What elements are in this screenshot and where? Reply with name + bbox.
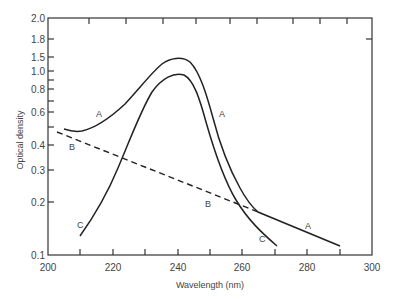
label-a-tail: A [305, 221, 311, 231]
x-tick-label: 200 [40, 262, 57, 273]
curve-labels: A A A B B C C [69, 109, 311, 244]
optical-density-chart: 2.0 1.8 1.5 1.0 0.8 0.6 0.4 0.3 0.2 0.1 … [0, 0, 397, 299]
x-axis-ticks [80, 18, 347, 255]
y-tick-label: 0.8 [31, 84, 45, 95]
x-axis-title: Wavelength (nm) [176, 280, 244, 290]
y-tick-label: 0.1 [31, 250, 45, 261]
curve-c [80, 74, 277, 246]
label-b-left: B [69, 142, 75, 152]
curve-b [57, 132, 258, 212]
x-tick-label: 240 [170, 262, 187, 273]
x-tick-label: 280 [299, 262, 316, 273]
y-tick-label: 1.0 [31, 66, 45, 77]
y-tick-label: 1.5 [31, 52, 45, 63]
label-a-left: A [96, 109, 102, 119]
y-axis-ticks [48, 39, 372, 202]
x-tick-labels: 200 220 240 260 280 300 [40, 262, 381, 273]
y-tick-label: 0.3 [31, 165, 45, 176]
label-c-right: C [259, 234, 266, 244]
y-tick-labels: 2.0 1.8 1.5 1.0 0.8 0.6 0.4 0.3 0.2 0.1 [31, 13, 45, 261]
y-tick-label: 0.2 [31, 197, 45, 208]
y-tick-label: 0.4 [31, 140, 45, 151]
x-tick-label: 300 [364, 262, 381, 273]
x-tick-label: 220 [105, 262, 122, 273]
x-tick-label: 260 [234, 262, 251, 273]
curve-a [64, 58, 340, 246]
y-tick-label: 2.0 [31, 13, 45, 24]
label-b-right: B [205, 199, 211, 209]
y-tick-label: 1.8 [31, 34, 45, 45]
label-a-right: A [219, 109, 225, 119]
label-c-left: C [77, 220, 84, 230]
y-axis-title: Optical density [15, 110, 25, 170]
y-tick-label: 0.6 [31, 107, 45, 118]
